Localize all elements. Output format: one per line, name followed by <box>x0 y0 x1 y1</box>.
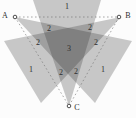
region-label-mid-left-double: 2 <box>36 38 40 47</box>
region-label-top-single: 1 <box>65 2 69 11</box>
region-label-center-triple: 3 <box>67 44 71 53</box>
region-label-bottom-right-single: 1 <box>101 65 105 74</box>
coverage-diagram-svg: A B C 1 1 1 2 2 2 2 2 2 3 <box>0 0 136 118</box>
node-b-marker <box>117 15 121 19</box>
node-b-label: B <box>125 11 130 20</box>
region-label-bottom-left-single: 1 <box>29 65 33 74</box>
node-c-marker <box>67 104 71 108</box>
region-label-lower-left-double: 2 <box>59 68 63 77</box>
node-a-marker <box>13 15 17 19</box>
region-label-lower-right-double: 2 <box>74 67 78 76</box>
node-c-label: C <box>74 103 79 112</box>
region-label-mid-right-double: 2 <box>94 38 98 47</box>
region-label-upper-right-double: 2 <box>88 23 92 32</box>
node-a-label: A <box>2 11 8 20</box>
coverage-diagram: A B C 1 1 1 2 2 2 2 2 2 3 <box>0 0 136 118</box>
region-label-upper-left-double: 2 <box>47 24 51 33</box>
